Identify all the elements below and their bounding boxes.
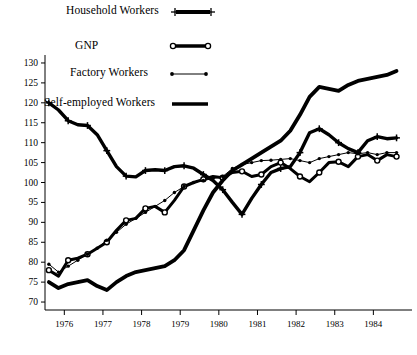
data-point [124,218,129,223]
y-tick-label: 100 [24,178,39,188]
x-tick-label: 1976 [55,319,74,329]
series-line [49,155,397,277]
data-point [144,211,147,214]
y-tick-label: 70 [29,297,39,307]
chart-figure: Household Workers GNP Factory Workers Se… [0,0,417,355]
y-tick-label: 95 [29,197,39,207]
data-point [298,159,301,162]
data-point [182,185,185,188]
x-tick-label: 1981 [248,319,266,329]
data-point [57,270,60,273]
data-point [336,159,341,164]
data-point [289,157,292,160]
data-point [163,199,166,202]
data-point [124,223,127,226]
data-point [153,205,156,208]
data-point [347,151,350,154]
data-point [115,231,118,234]
data-point [181,162,188,169]
y-tick-label: 130 [24,58,39,68]
y-tick-label: 75 [29,277,39,287]
y-tick-label: 120 [24,98,39,108]
y-tick-label: 105 [24,158,39,168]
data-point [192,181,195,184]
data-point [173,191,176,194]
legend-swatch-gnp [170,43,210,48]
y-tick-label: 115 [24,118,38,128]
data-point [86,253,89,256]
data-point [393,134,400,141]
data-point [356,152,359,155]
series-line [49,71,397,290]
data-point [95,247,98,250]
series-line [49,153,397,273]
y-tick-label: 85 [29,237,39,247]
data-point [279,158,282,161]
data-point [47,262,50,265]
data-point [162,210,167,215]
data-point [76,258,79,261]
series-factory-workers [47,151,398,274]
y-tick-label: 80 [29,257,39,267]
data-point [317,170,322,175]
data-point [260,159,263,162]
data-point [337,153,340,156]
series-gnp [46,154,399,276]
plot-area [45,71,399,290]
data-point [66,264,69,267]
data-point [395,151,398,154]
y-tick-label: 110 [24,138,38,148]
y-axis: 130125120115110105100959085807570 [24,55,45,310]
data-point [143,206,148,211]
y-tick-label: 125 [24,78,39,88]
y-tick-label: 90 [29,217,39,227]
x-tick-label: 1979 [171,319,190,329]
x-tick-label: 1984 [364,319,383,329]
data-point [308,161,311,164]
series-line [49,103,397,215]
data-point [211,177,214,180]
x-tick-label: 1982 [287,319,305,329]
series-household-workers [45,99,399,217]
x-tick-label: 1983 [326,319,345,329]
data-point [394,154,399,159]
data-point [269,158,272,161]
data-point [318,157,321,160]
x-tick-label: 1980 [210,319,229,329]
x-tick-label: 1977 [94,319,113,329]
data-point [66,258,71,263]
data-point [327,155,330,158]
data-point [259,172,264,177]
x-tick-label: 1978 [133,319,152,329]
legend-swatch-factory-workers [170,72,208,76]
data-point [366,151,369,154]
series-self-employed-workers [49,71,397,290]
data-point [297,174,302,179]
data-point [105,239,108,242]
legend-swatch-household-workers [171,8,215,16]
data-point [385,151,388,154]
x-axis: 197619771978197919801981198219831984 [45,310,412,329]
chart-canvas: 130125120115110105100959085807570 197619… [0,0,417,355]
data-point [46,268,51,273]
data-point [375,158,380,163]
data-point [202,179,205,182]
data-point [376,153,379,156]
data-point [240,169,245,174]
data-point [134,217,137,220]
